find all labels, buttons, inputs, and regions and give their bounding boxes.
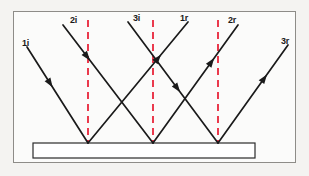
arrowhead-3r [259,74,267,84]
ray-line-1i [27,47,88,143]
ray-line-3r [218,45,288,143]
ray-1i [27,47,88,143]
mirror-group [33,143,255,158]
ray-label-3r: 3r [281,37,289,46]
ray-line-2r [153,25,238,143]
ray-label-2i: 2i [70,16,77,25]
arrowhead-2r [206,58,214,68]
ray-label-1i: 1i [22,39,29,48]
ray-3r [218,45,288,143]
ray-label-1r: 1r [180,14,188,23]
ray-diagram-canvas [0,0,309,176]
arrowhead-1i [45,77,53,87]
reflection-diagram: 1i2i3i1r2r3r [0,0,309,176]
ray-2r [153,25,238,143]
ray-label-3i: 3i [133,14,140,23]
plane-mirror [33,143,255,158]
ray-label-2r: 2r [228,16,236,25]
light-rays-group [27,22,288,143]
